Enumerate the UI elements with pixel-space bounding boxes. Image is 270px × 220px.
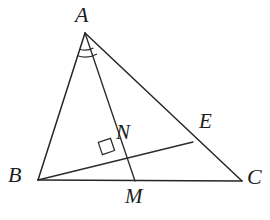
segment-BE: [38, 142, 193, 180]
segment-side-BC: [38, 180, 242, 181]
angle-arc-inner-icon: [80, 48, 94, 50]
label-point-M: M: [125, 186, 143, 207]
segment-side-AC: [85, 33, 242, 181]
label-point-B: B: [8, 164, 21, 186]
label-point-N: N: [116, 122, 130, 143]
angle-arc-outer-icon: [78, 54, 97, 57]
label-point-E: E: [199, 111, 212, 132]
geometry-figure-canvas: A B C E N M: [0, 0, 270, 220]
right-angle-icon: [98, 138, 114, 154]
segment-side-AB: [38, 33, 85, 180]
segment-cevian-AM: [85, 33, 135, 181]
label-point-C: C: [247, 166, 262, 188]
label-point-A: A: [75, 4, 88, 26]
